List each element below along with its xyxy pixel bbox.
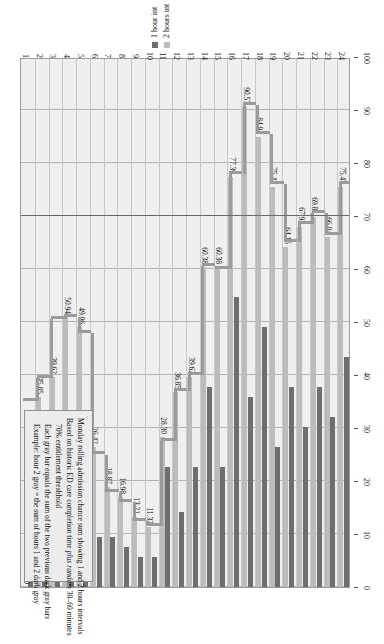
category-tick-label: 3 — [48, 45, 57, 67]
threshold-line — [21, 215, 349, 216]
bar-1-hour-int — [330, 417, 335, 587]
caption-line: Example: hour 2 gray = the sum of hours … — [31, 418, 42, 574]
category-tick-label: 11 — [158, 45, 167, 67]
value-tick-label: 40 — [360, 366, 372, 386]
bar-1-hour-int — [97, 537, 102, 587]
category-tick-label: 20 — [282, 45, 291, 67]
bar-1-hour-int — [289, 387, 294, 587]
category-tick-label: 4 — [62, 45, 71, 67]
connector-marker — [64, 317, 67, 320]
category-tick-label: 15 — [213, 45, 222, 67]
bar-group: 64.15 — [282, 59, 296, 587]
category-tick-label: 17 — [241, 45, 250, 67]
category-tick-label: 12 — [172, 45, 181, 67]
value-tick-mark — [354, 587, 358, 588]
bar-2-hours-int — [118, 497, 123, 587]
category-tick-label: 7 — [103, 45, 112, 67]
connector-marker — [298, 224, 301, 243]
connector-marker — [270, 134, 273, 184]
value-tick-mark — [354, 269, 358, 270]
bar-1-hour-int — [262, 327, 267, 587]
bar-1-hour-int — [275, 447, 280, 587]
value-axis: 0102030405060708090100 — [352, 58, 378, 588]
connector-marker — [229, 174, 232, 269]
bar-2-hours-int — [132, 517, 137, 587]
category-tick-label: 10 — [145, 45, 154, 67]
category-axis: 123456789101112131415161718192021222324 — [20, 34, 350, 56]
category-tick-label: 16 — [227, 45, 236, 67]
connector-marker — [23, 399, 36, 402]
bar-group: 11.32 — [145, 59, 159, 587]
bar-2-hours-int — [242, 107, 247, 587]
connector-marker — [50, 319, 53, 377]
bar-1-hour-int — [138, 557, 143, 587]
bar-group: 69.81 — [310, 59, 324, 587]
bar-2-hours-int — [297, 227, 302, 587]
connector-marker — [339, 184, 342, 234]
connector-marker — [256, 105, 259, 134]
bar-2-hours-int — [187, 377, 192, 587]
bar-1-hour-int — [110, 537, 115, 587]
connector-marker — [119, 492, 122, 503]
bar-1-hour-int — [220, 467, 225, 587]
connector-marker — [174, 391, 177, 441]
category-tick-label: 19 — [268, 45, 277, 67]
value-tick-mark — [354, 375, 358, 376]
caption-box: Monday rolling admission chance sum show… — [24, 410, 93, 582]
category-tick-label: 1 — [21, 45, 30, 67]
connector-marker — [160, 441, 163, 526]
bar-2-hours-int — [338, 187, 343, 587]
caption-line: Based on historic ED care completion tim… — [64, 418, 75, 574]
category-tick-label: 24 — [337, 45, 346, 67]
value-tick-mark — [354, 216, 358, 217]
bar-group: 75.47 — [337, 59, 350, 587]
bar-group: 67.92 — [296, 59, 310, 587]
bar-group: 18.87 — [104, 59, 118, 587]
connector-marker — [284, 184, 287, 242]
bar-group: 16.98 — [117, 59, 131, 587]
bar-value-label: 50.94 — [63, 297, 72, 314]
bar-1-hour-int — [234, 297, 239, 587]
bar-group: 60.38 — [214, 59, 228, 587]
connector-marker — [243, 105, 246, 174]
value-tick-mark — [354, 481, 358, 482]
bar-value-label: 36.85 — [173, 372, 182, 389]
bar-1-hour-int — [207, 387, 212, 587]
connector-marker — [36, 378, 39, 402]
connector-marker — [188, 375, 191, 391]
bar-1-hour-int — [317, 387, 322, 587]
bar-value-label: 28.30 — [159, 417, 168, 434]
value-tick-label: 70 — [360, 207, 372, 227]
connector-marker — [146, 521, 149, 526]
value-tick-label: 0 — [360, 578, 372, 598]
bar-1-hour-int — [152, 557, 157, 587]
legend-label: 2 hours int — [162, 4, 171, 38]
value-tick-label: 80 — [360, 154, 372, 174]
bar-2-hours-int — [215, 267, 220, 587]
bar-group: 84.91 — [255, 59, 269, 587]
value-tick-mark — [354, 428, 358, 429]
value-tick-label: 90 — [360, 101, 372, 121]
category-tick-label: 5 — [76, 45, 85, 67]
bar-group: 39.62 — [186, 59, 200, 587]
bar-value-label: 60.38 — [214, 247, 223, 264]
chart-figure: 1 hour int 2 hours int 0.0035.8539.6250.… — [0, 0, 384, 644]
value-tick-mark — [354, 57, 358, 58]
category-tick-label: 14 — [200, 45, 209, 67]
value-tick-mark — [354, 534, 358, 535]
bar-group: 66.04 — [324, 59, 338, 587]
bar-group: 77.36 — [227, 59, 241, 587]
bar-1-hour-int — [248, 397, 253, 587]
bar-value-label: 60.38 — [200, 247, 209, 264]
bar-2-hours-int — [283, 247, 288, 587]
bar-2-hours-int — [270, 187, 275, 587]
value-tick-mark — [354, 163, 358, 164]
bar-2-hours-int — [325, 237, 330, 587]
category-tick-label: 13 — [186, 45, 195, 67]
value-tick-label: 30 — [360, 419, 372, 439]
category-tick-label: 22 — [310, 45, 319, 67]
value-tick-label: 50 — [360, 313, 372, 333]
bar-1-hour-int — [124, 547, 129, 587]
category-tick-label: 2 — [35, 45, 44, 67]
bar-2-hours-int — [105, 487, 110, 587]
